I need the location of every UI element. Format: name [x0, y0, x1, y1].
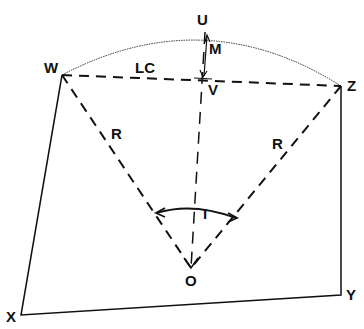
label-x: X — [6, 309, 16, 324]
label-u: U — [197, 12, 208, 27]
label-w: W — [44, 60, 58, 75]
center-line — [191, 32, 205, 268]
v-tick — [194, 78, 212, 79]
label-z: Z — [347, 78, 356, 93]
radius-right — [191, 86, 341, 268]
geometry-drawing — [0, 0, 364, 329]
diagram-canvas: U M W LC V Z R R I O X Y — [0, 0, 364, 329]
label-o: O — [185, 273, 197, 288]
radius-left — [62, 75, 191, 268]
label-y: Y — [346, 287, 356, 302]
label-m: M — [209, 41, 222, 56]
angle-arc — [157, 209, 236, 218]
boundary-lines — [21, 75, 341, 315]
m-arrowhead-bottom — [200, 70, 207, 77]
label-lc: LC — [135, 60, 155, 75]
label-i: I — [203, 206, 207, 221]
label-r-right: R — [272, 136, 283, 151]
label-r-left: R — [111, 126, 122, 141]
label-v: V — [208, 82, 218, 97]
